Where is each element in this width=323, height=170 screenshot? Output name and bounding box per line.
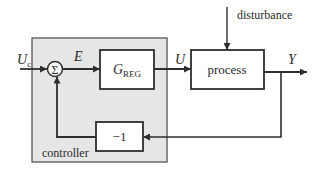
negation-label: −1 xyxy=(113,129,127,144)
sum-symbol: Σ xyxy=(52,63,59,77)
reference-label: Uc xyxy=(17,52,31,69)
controller-label: controller xyxy=(42,146,89,160)
feedback-block-diagram: Uc E Σ GREG U process disturbance Y −1 c… xyxy=(0,0,323,170)
process-label: process xyxy=(208,62,247,77)
error-label: E xyxy=(73,49,83,64)
control-label: U xyxy=(175,52,186,67)
output-label: Y xyxy=(288,52,298,67)
disturbance-label: disturbance xyxy=(237,8,292,22)
